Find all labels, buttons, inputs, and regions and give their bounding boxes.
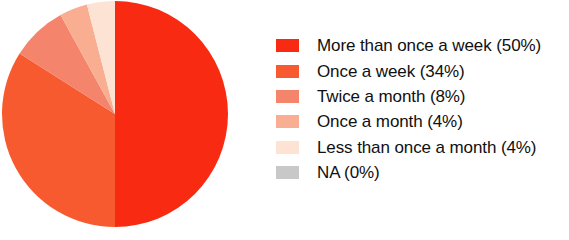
legend-item-label: Less than once a month (4%) <box>317 138 536 157</box>
pie-slice <box>115 1 228 227</box>
legend-item-label: NA (0%) <box>317 163 380 182</box>
legend-item-once-a-month: Once a month (4%) <box>276 109 568 134</box>
legend-swatch-icon <box>276 141 299 154</box>
legend-item-label: Twice a month (8%) <box>317 87 465 106</box>
legend-item-more-than-once-a-week: More than once a week (50%) <box>276 33 568 58</box>
legend-swatch-icon <box>276 39 299 52</box>
legend-swatch-icon <box>276 90 299 103</box>
legend-item-label: Once a month (4%) <box>317 112 463 131</box>
pie-svg <box>0 0 240 240</box>
legend-item-label: Once a week (34%) <box>317 62 465 81</box>
pie-slices <box>2 1 228 227</box>
legend-swatch-icon <box>276 115 299 128</box>
legend-swatch-icon <box>276 166 299 179</box>
legend-item-less-than-once-a-month: Less than once a month (4%) <box>276 135 568 160</box>
legend-swatch-icon <box>276 65 299 78</box>
legend-item-label: More than once a week (50%) <box>317 36 541 55</box>
pie-chart-graphic <box>0 0 240 240</box>
chart-legend: More than once a week (50%) Once a week … <box>276 33 568 185</box>
legend-item-twice-a-month: Twice a month (8%) <box>276 84 568 109</box>
legend-item-na: NA (0%) <box>276 160 568 185</box>
pie-chart-figure: More than once a week (50%) Once a week … <box>0 0 569 240</box>
legend-item-once-a-week: Once a week (34%) <box>276 58 568 83</box>
